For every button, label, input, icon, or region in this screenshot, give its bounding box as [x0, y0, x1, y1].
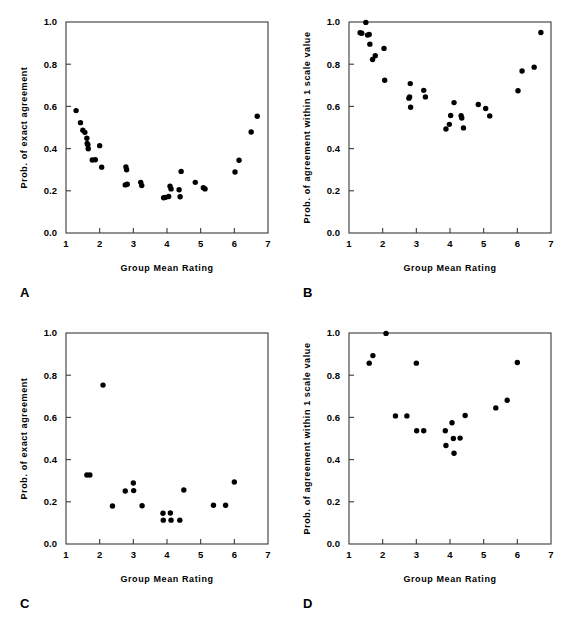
data-point	[168, 510, 173, 515]
data-point	[177, 517, 182, 522]
data-point	[443, 126, 448, 131]
x-tick-label: 2	[380, 549, 385, 560]
x-tick-label: 1	[63, 238, 69, 249]
x-axis-title: Group Mean Rating	[120, 574, 213, 584]
panel-a-plot: 12345670.00.20.40.60.81.0Group Mean Rati…	[0, 0, 283, 311]
x-tick-label: 7	[548, 238, 553, 249]
data-point	[382, 78, 387, 83]
data-point	[515, 88, 520, 93]
x-tick-label: 4	[164, 549, 170, 560]
data-point	[487, 113, 492, 118]
data-point	[110, 503, 115, 508]
x-tick-label: 4	[447, 549, 453, 560]
data-point	[423, 94, 428, 99]
x-tick-label: 3	[414, 238, 419, 249]
y-axis-title: Prob. of agreement within 1 scale value	[302, 343, 312, 535]
data-point	[168, 517, 173, 522]
data-point	[404, 413, 409, 418]
data-point	[124, 167, 129, 172]
y-tick-label: 0.0	[44, 538, 57, 549]
data-point	[181, 487, 186, 492]
x-tick-label: 5	[481, 549, 487, 560]
data-point	[447, 122, 452, 127]
data-point	[139, 183, 144, 188]
data-point	[232, 169, 237, 174]
y-axis-title: Prob. of exact agreement	[19, 67, 29, 189]
data-point	[448, 113, 453, 118]
data-point	[223, 502, 228, 507]
x-tick-label: 6	[232, 549, 237, 560]
x-axis-title: Group Mean Rating	[120, 263, 213, 273]
panel-letter-d: D	[303, 596, 313, 611]
panel-c: 12345670.00.20.40.60.81.0Group Mean Rati…	[0, 311, 283, 622]
data-point	[131, 480, 136, 485]
data-point	[515, 360, 520, 365]
data-point	[383, 331, 388, 336]
x-tick-label: 2	[97, 238, 102, 249]
data-point	[211, 502, 216, 507]
data-points	[367, 331, 521, 456]
data-point	[451, 100, 456, 105]
data-point	[459, 115, 464, 120]
data-point	[93, 157, 98, 162]
panel-b-plot: 12345670.00.20.40.60.81.0Group Mean Rati…	[283, 0, 566, 311]
data-point	[461, 125, 466, 130]
data-point	[176, 187, 181, 192]
x-tick-label: 3	[414, 549, 419, 560]
x-tick-label: 6	[232, 238, 237, 249]
y-tick-label: 0.2	[44, 185, 57, 196]
data-point	[359, 30, 364, 35]
x-tick-label: 2	[97, 549, 102, 560]
data-point	[407, 94, 412, 99]
data-point	[451, 451, 456, 456]
y-tick-label: 1.0	[327, 327, 340, 338]
data-point	[131, 488, 136, 493]
panel-d-plot: 12345670.00.20.40.60.81.0Group Mean Rati…	[283, 311, 566, 622]
data-point	[73, 108, 78, 113]
panel-letter-c: C	[20, 596, 30, 611]
data-point	[367, 32, 372, 37]
y-tick-label: 0.8	[327, 59, 340, 70]
y-tick-label: 0.2	[327, 496, 340, 507]
data-point	[370, 353, 375, 358]
data-point	[236, 158, 241, 163]
data-point	[168, 186, 173, 191]
data-point	[367, 41, 372, 46]
x-tick-label: 7	[265, 238, 270, 249]
data-point	[97, 143, 102, 148]
x-tick-label: 4	[447, 238, 453, 249]
data-point	[457, 435, 462, 440]
data-point	[519, 68, 524, 73]
data-point	[493, 405, 498, 410]
x-tick-label: 3	[131, 549, 136, 560]
y-tick-label: 0.6	[44, 412, 57, 423]
y-tick-label: 0.8	[44, 370, 57, 381]
data-point	[421, 428, 426, 433]
data-point	[393, 413, 398, 418]
data-point	[166, 194, 171, 199]
panel-letter-b: B	[303, 285, 313, 300]
y-tick-label: 0.6	[327, 101, 340, 112]
data-point	[248, 129, 253, 134]
x-tick-label: 6	[515, 549, 520, 560]
data-point	[538, 30, 543, 35]
data-point	[100, 382, 105, 387]
data-point	[531, 64, 536, 69]
x-tick-label: 1	[346, 549, 352, 560]
data-point	[78, 120, 83, 125]
data-point	[443, 443, 448, 448]
data-point	[255, 114, 260, 119]
data-point	[84, 136, 89, 141]
data-point	[87, 472, 92, 477]
data-point	[139, 503, 144, 508]
y-tick-label: 1.0	[327, 16, 340, 27]
y-tick-label: 0.4	[44, 454, 58, 465]
data-point	[367, 360, 372, 365]
x-tick-label: 6	[515, 238, 520, 249]
data-point	[125, 182, 130, 187]
y-tick-label: 0.0	[44, 227, 57, 238]
y-tick-label: 0.0	[327, 538, 340, 549]
x-tick-label: 5	[481, 238, 487, 249]
data-point	[483, 106, 488, 111]
data-point	[160, 510, 165, 515]
